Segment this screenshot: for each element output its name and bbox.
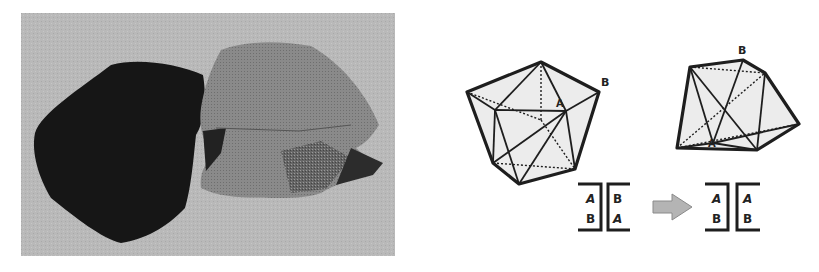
after-left-top: A	[711, 192, 721, 206]
left-label-a: A	[556, 98, 564, 109]
right-polyhedron: B A	[677, 44, 799, 150]
before-left-bottom: B	[586, 212, 595, 226]
left-label-b: B	[601, 76, 609, 89]
before-left-top: A	[585, 192, 595, 206]
polyhedron-diagram: B A B A	[440, 0, 819, 272]
before-right-bottom: A	[612, 212, 622, 226]
knitted-polyhedra-photo	[21, 13, 395, 256]
after-right-top: A	[742, 192, 752, 206]
photo-canvas	[21, 13, 395, 256]
after-right-bottom: B	[743, 212, 752, 226]
right-label-b: B	[738, 44, 746, 57]
after-bracket-pair: A B A B	[705, 184, 760, 230]
right-label-a: A	[708, 138, 716, 149]
diagram-canvas: B A B A	[440, 0, 819, 272]
after-left-bottom: B	[712, 212, 721, 226]
before-right-top: B	[613, 192, 622, 206]
right-arrow-icon	[653, 194, 692, 220]
left-polyhedron: B A	[467, 62, 609, 184]
before-bracket-pair: A B B A	[578, 184, 630, 230]
